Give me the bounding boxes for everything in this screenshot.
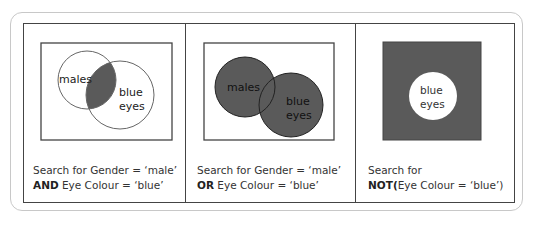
caption-line-2: NOT(Eye Colour = ‘blue’): [368, 178, 503, 193]
operator-keyword: NOT(: [368, 179, 398, 191]
eyes-label: eyes: [119, 100, 145, 113]
males-label: males: [227, 81, 260, 94]
venn-not: blue eyes: [383, 42, 481, 140]
caption-line-1: Search for: [368, 163, 503, 178]
blue-label: blue: [286, 95, 310, 108]
operator-keyword: AND: [33, 179, 59, 191]
males-label: males: [59, 73, 92, 86]
caption-or: Search for Gender = ‘male’ OR Eye Colour…: [197, 163, 341, 192]
eyes-label: eyes: [286, 109, 312, 122]
caption-not: Search for NOT(Eye Colour = ‘blue’): [368, 163, 503, 192]
caption-line-2: AND Eye Colour = ‘blue’: [33, 178, 177, 193]
caption-line-2: OR Eye Colour = ‘blue’: [197, 178, 341, 193]
blue-label: blue: [420, 84, 443, 96]
operator-keyword: OR: [197, 179, 214, 191]
venn-or: males blue eyes: [204, 43, 334, 140]
eyes-label: eyes: [420, 98, 445, 110]
venn-and: males blue eyes: [41, 43, 172, 140]
caption-and: Search for Gender = ‘male’ AND Eye Colou…: [33, 163, 177, 192]
blue-eyes-circle: [409, 72, 457, 120]
caption-line-1: Search for Gender = ‘male’: [33, 163, 177, 178]
blue-label: blue: [119, 86, 143, 99]
caption-line-1: Search for Gender = ‘male’: [197, 163, 341, 178]
